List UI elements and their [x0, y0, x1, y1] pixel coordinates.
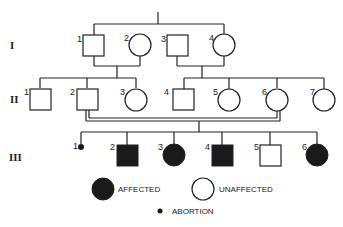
individual-II-7: [313, 89, 335, 111]
individual-II-1: [30, 89, 51, 110]
pedigree-diagram: I II III 1 2 3 4 1 2 3 4 5 6 7: [0, 0, 343, 227]
generation-label-III: III: [9, 153, 22, 163]
individual-III-3: [163, 144, 185, 166]
individual-III-4: [212, 145, 233, 166]
number-II-5: 5: [213, 87, 218, 97]
number-II-1: 1: [24, 87, 29, 97]
individual-II-6: [266, 89, 288, 111]
individual-III-5: [260, 145, 281, 166]
number-II-4: 4: [164, 87, 169, 97]
consanguineous-mating-line: [86, 110, 280, 121]
number-III-6: 6: [302, 142, 307, 152]
number-I-2: 2: [124, 33, 129, 43]
number-I-3: 3: [161, 34, 166, 44]
number-II-2: 2: [70, 87, 75, 97]
individual-II-2: [77, 89, 98, 110]
number-I-4: 4: [209, 33, 214, 43]
individual-III-2: [117, 145, 138, 166]
legend-abortion-label: ABORTION: [172, 207, 214, 216]
number-III-2: 2: [110, 142, 115, 152]
generation-label-I: I: [10, 41, 14, 51]
legend-unaffected-symbol: [192, 178, 214, 200]
number-III-3: 3: [158, 142, 163, 152]
individual-II-3: [125, 89, 147, 111]
legend-affected-label: AFFECTED: [118, 185, 160, 194]
number-I-1: 1: [77, 34, 82, 44]
individual-II-4: [173, 89, 194, 110]
number-III-5: 5: [254, 142, 259, 152]
legend-unaffected-label: UNAFFECTED: [219, 185, 273, 194]
number-II-7: 7: [310, 87, 315, 97]
number-III-4: 4: [205, 142, 210, 152]
legend: AFFECTED UNAFFECTED ABORTION: [92, 178, 273, 216]
individual-I-4: [213, 34, 235, 56]
individual-I-1: [83, 35, 104, 56]
number-II-3: 3: [120, 87, 125, 97]
generation-label-II: II: [10, 95, 18, 105]
individual-I-2: [129, 34, 151, 56]
legend-affected-symbol: [92, 178, 114, 200]
number-III-1: 1: [73, 141, 78, 151]
individual-III-6: [306, 144, 328, 166]
individual-III-1: [78, 144, 84, 150]
legend-abortion-symbol: [158, 209, 163, 214]
number-II-6: 6: [262, 87, 267, 97]
individual-II-5: [218, 89, 240, 111]
individual-I-3: [167, 35, 188, 56]
